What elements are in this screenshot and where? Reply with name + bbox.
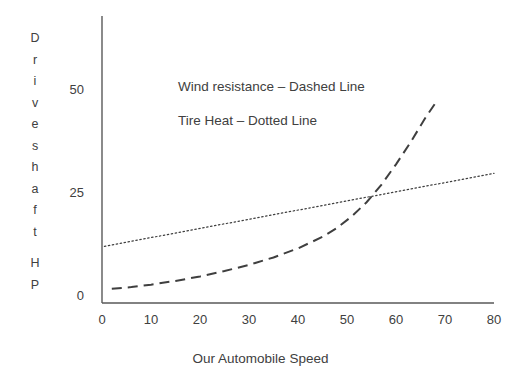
series-line-tire-heat	[104, 173, 494, 246]
legend-item-wind-resistance: Wind resistance – Dashed Line	[178, 79, 365, 94]
series-line-wind-resistance	[112, 103, 435, 288]
legend-item-tire-heat: Tire Heat – Dotted Line	[178, 113, 317, 128]
x-axis-title: Our Automobile Speed	[0, 351, 521, 366]
chart-container: D r i v e s h a f t H P 50 25 0 01020304…	[0, 0, 521, 391]
plot-area	[0, 0, 521, 391]
